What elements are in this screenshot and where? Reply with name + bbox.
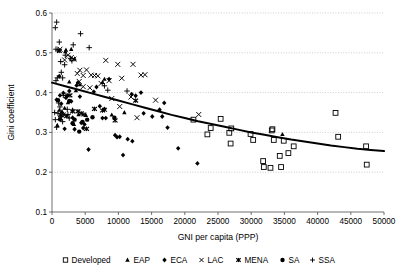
plot-area	[52, 13, 384, 212]
data-point	[72, 117, 76, 121]
legend-marker-filled-diamond	[162, 258, 166, 263]
x-tick-label: 0	[50, 217, 55, 226]
data-point	[90, 115, 94, 119]
y-tick-label: 0.5	[36, 49, 48, 58]
y-axis-ticks: 0.10.20.30.40.50.6	[36, 9, 52, 217]
x-tick-label: 35000	[273, 217, 296, 226]
data-point	[85, 117, 89, 121]
legend-marker-filled-circle	[280, 258, 284, 262]
legend-label: ECA	[171, 256, 188, 265]
x-tick-label: 10000	[107, 217, 130, 226]
y-axis-title: Gini coefficient	[6, 84, 16, 141]
x-tick-label: 30000	[240, 217, 263, 226]
x-tick-label: 20000	[173, 217, 196, 226]
legend-item-lac[interactable]: LAC	[199, 256, 223, 265]
legend-item-eca[interactable]: ECA	[162, 256, 188, 265]
data-point	[80, 120, 84, 124]
x-tick-label: 45000	[339, 217, 362, 226]
y-tick-label: 0.4	[36, 89, 48, 98]
x-tick-label: 15000	[140, 217, 163, 226]
y-tick-label: 0.1	[36, 208, 48, 217]
data-point	[56, 98, 60, 102]
legend-item-mena[interactable]: MENA	[236, 256, 268, 265]
legend-label: EAP	[134, 256, 151, 265]
plot-background	[52, 13, 384, 212]
legend-label: Developed	[72, 256, 112, 265]
legend-label: MENA	[245, 256, 269, 265]
x-tick-label: 5000	[76, 217, 95, 226]
x-axis-ticks: 0500010000150002000025000300003500040000…	[50, 212, 396, 226]
legend-marker-open-square	[63, 258, 67, 262]
y-tick-label: 0.6	[36, 9, 48, 18]
x-tick-label: 50000	[373, 217, 396, 226]
data-point	[77, 129, 81, 133]
legend-marker-star-asterisk	[236, 258, 240, 262]
legend-marker-plus	[310, 258, 315, 263]
legend-label: SA	[289, 256, 300, 265]
x-tick-label: 25000	[207, 217, 230, 226]
legend-label: SSA	[319, 256, 336, 265]
scatter-chart: 0.10.20.30.40.50.60500010000150002000025…	[0, 0, 403, 273]
legend-marker-cross-x	[199, 258, 203, 262]
legend: DevelopedEAPECALACMENASASSA	[63, 256, 335, 265]
chart-figure: 0.10.20.30.40.50.60500010000150002000025…	[0, 0, 403, 273]
legend-item-sa[interactable]: SA	[280, 256, 300, 265]
legend-item-ssa[interactable]: SSA	[310, 256, 335, 265]
y-tick-label: 0.3	[36, 128, 48, 137]
data-point	[112, 115, 116, 119]
legend-marker-filled-triangle	[125, 258, 129, 262]
legend-item-developed[interactable]: Developed	[63, 256, 111, 265]
legend-label: LAC	[208, 256, 224, 265]
x-axis-title: GNI per capita (PPP)	[178, 232, 259, 242]
x-tick-label: 40000	[306, 217, 329, 226]
data-point	[67, 99, 71, 103]
y-tick-label: 0.2	[36, 168, 48, 177]
legend-item-eap[interactable]: EAP	[125, 256, 150, 265]
